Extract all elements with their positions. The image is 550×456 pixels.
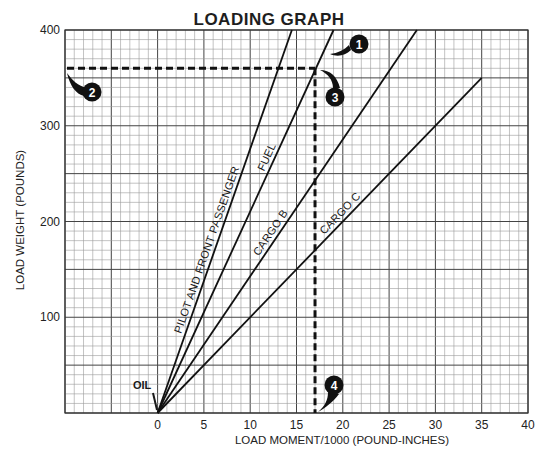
line-labels: PILOT AND FRONT PASSENGERFUELCARGO BCARG… bbox=[172, 141, 363, 335]
y-tick-label: 400 bbox=[40, 23, 60, 37]
callout-marker-1: 1 bbox=[330, 35, 369, 56]
y-axis-label: LOAD WEIGHT (POUNDS) bbox=[14, 150, 26, 291]
callout-marker-3: 3 bbox=[320, 70, 345, 107]
x-tick-label: 35 bbox=[475, 418, 489, 432]
callout-pointer bbox=[318, 392, 339, 412]
x-tick-label: 0 bbox=[154, 418, 161, 432]
x-tick-label: 10 bbox=[244, 418, 258, 432]
callout-pointer bbox=[330, 45, 351, 56]
callout-number: 1 bbox=[356, 38, 363, 52]
callout-number: 2 bbox=[89, 86, 96, 100]
callout-number: 3 bbox=[332, 91, 339, 105]
callout-pointer bbox=[320, 70, 340, 88]
x-axis-label: LOAD MOMENT/1000 (POUND-INCHES) bbox=[235, 434, 449, 446]
series-label: CARGO C bbox=[317, 190, 363, 237]
x-tick-label: 25 bbox=[382, 418, 396, 432]
oil-label: OIL bbox=[133, 379, 152, 391]
x-tick-label: 5 bbox=[201, 418, 208, 432]
oil-pointer bbox=[153, 393, 157, 410]
y-tick-label: 100 bbox=[40, 310, 60, 324]
loading-graph: LOADING GRAPH 05101520253035401002003004… bbox=[0, 0, 550, 456]
y-tick-label: 200 bbox=[40, 215, 60, 229]
x-tick-label: 15 bbox=[290, 418, 304, 432]
x-tick-label: 20 bbox=[336, 418, 350, 432]
callout-number: 4 bbox=[331, 379, 338, 393]
x-tick-label: 30 bbox=[429, 418, 443, 432]
x-tick-label: 40 bbox=[521, 418, 535, 432]
chart-title: LOADING GRAPH bbox=[194, 10, 345, 29]
y-tick-label: 300 bbox=[40, 119, 60, 133]
grid bbox=[65, 30, 528, 413]
series-label: PILOT AND FRONT PASSENGER bbox=[172, 164, 242, 334]
